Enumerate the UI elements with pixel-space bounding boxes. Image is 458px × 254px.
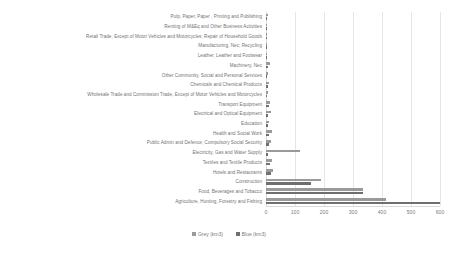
bar-row bbox=[266, 148, 440, 158]
bar-row bbox=[266, 109, 440, 119]
category-axis-labels: Pulp, Paper, Paper , Printing and Publis… bbox=[0, 12, 262, 206]
category-label: Construction bbox=[236, 179, 262, 184]
category-label: Pulp, Paper, Paper , Printing and Publis… bbox=[170, 14, 262, 19]
category-label: Chemicals and Chemical Products bbox=[190, 82, 262, 87]
bar-row bbox=[266, 196, 440, 206]
value-axis-tick: 400 bbox=[378, 209, 386, 215]
bar-blue bbox=[266, 124, 268, 127]
bar-blue bbox=[266, 153, 268, 156]
legend-swatch-icon bbox=[236, 232, 240, 236]
legend-swatch-icon bbox=[192, 232, 196, 236]
bar-grey bbox=[266, 72, 268, 75]
bar-grey bbox=[266, 14, 268, 17]
legend-label: Grey (km3) bbox=[198, 231, 223, 237]
category-label: Education bbox=[241, 121, 262, 126]
bar-row bbox=[266, 119, 440, 129]
bar-blue bbox=[266, 163, 270, 166]
chart-legend: Grey (km3)Blue (km3) bbox=[0, 231, 458, 237]
category-label: Health and Social Work bbox=[213, 131, 262, 136]
bar-row bbox=[266, 128, 440, 138]
bar-grey bbox=[266, 159, 272, 162]
bar-row bbox=[266, 12, 440, 22]
bar-blue bbox=[266, 85, 268, 88]
bar-row bbox=[266, 158, 440, 168]
legend-item[interactable]: Blue (km3) bbox=[236, 231, 266, 237]
bar-grey bbox=[266, 121, 269, 124]
bar-blue bbox=[266, 75, 267, 78]
bar-grey bbox=[266, 130, 272, 133]
category-label: Manufacturing, Nec; Recycling bbox=[198, 43, 262, 48]
bar-row bbox=[266, 61, 440, 71]
bar-grey bbox=[266, 179, 321, 182]
bar-blue bbox=[266, 134, 269, 137]
bar-blue bbox=[266, 66, 268, 69]
category-label: Textiles and Textile Products bbox=[203, 160, 262, 165]
bar-row bbox=[266, 41, 440, 51]
bar-blue bbox=[266, 17, 267, 20]
bar-grey bbox=[266, 169, 273, 172]
value-axis-tick: 100 bbox=[291, 209, 299, 215]
category-label: Agriculture, Hunting, Forestry and Fishi… bbox=[175, 199, 262, 204]
category-label: Electrical and Optical Equipment bbox=[194, 111, 262, 116]
bar-grey bbox=[266, 91, 268, 94]
value-axis-tick: 300 bbox=[349, 209, 357, 215]
plot-area bbox=[266, 12, 440, 206]
bar-blue bbox=[266, 37, 267, 40]
bar-row bbox=[266, 31, 440, 41]
bar-row bbox=[266, 51, 440, 61]
category-label: Leather, Leather and Footwear bbox=[198, 53, 262, 58]
bar-row bbox=[266, 187, 440, 197]
bar-row bbox=[266, 70, 440, 80]
bar-blue bbox=[266, 56, 267, 59]
category-label: Machinery, Nec bbox=[230, 63, 262, 68]
bar-blue bbox=[266, 202, 440, 205]
bar-row bbox=[266, 138, 440, 148]
bar-chart: Pulp, Paper, Paper , Printing and Publis… bbox=[0, 0, 458, 254]
legend-item[interactable]: Grey (km3) bbox=[192, 231, 223, 237]
bar-grey bbox=[266, 82, 269, 85]
bar-rows bbox=[266, 12, 440, 206]
bar-grey bbox=[266, 24, 267, 27]
bar-blue bbox=[266, 182, 311, 185]
value-axis-tick: 0 bbox=[265, 209, 268, 215]
bar-row bbox=[266, 22, 440, 32]
bar-row bbox=[266, 80, 440, 90]
bar-grey bbox=[266, 33, 267, 36]
value-axis-line bbox=[266, 206, 440, 207]
bar-grey bbox=[266, 43, 267, 46]
bar-grey bbox=[266, 111, 271, 114]
bar-grey bbox=[266, 62, 270, 65]
category-label: Other Community, Social and Personal Ser… bbox=[162, 73, 262, 78]
bar-row bbox=[266, 177, 440, 187]
category-label: Renting of M&Eq and Other Business Activ… bbox=[164, 24, 262, 29]
value-axis-tick: 500 bbox=[407, 209, 415, 215]
bar-row bbox=[266, 99, 440, 109]
bar-grey bbox=[266, 53, 267, 56]
bar-grey bbox=[266, 140, 271, 143]
bar-row bbox=[266, 90, 440, 100]
bar-blue bbox=[266, 27, 267, 30]
bar-blue bbox=[266, 172, 271, 175]
bar-blue bbox=[266, 114, 268, 117]
bar-blue bbox=[266, 46, 267, 49]
category-label: Public Admin and Defence; Compulsory Soc… bbox=[147, 140, 262, 145]
bar-blue bbox=[266, 192, 363, 195]
gridline bbox=[440, 12, 441, 206]
legend-label: Blue (km3) bbox=[242, 231, 266, 237]
category-label: Retail Trade, Except of Motor Vehicles a… bbox=[86, 34, 262, 39]
category-label: Electricity, Gas and Water Supply bbox=[192, 150, 262, 155]
bar-grey bbox=[266, 101, 270, 104]
bar-blue bbox=[266, 105, 269, 108]
category-label: Transport Equipment bbox=[218, 102, 262, 107]
bar-row bbox=[266, 167, 440, 177]
value-axis-tick: 200 bbox=[320, 209, 328, 215]
bar-grey bbox=[266, 150, 300, 153]
bar-blue bbox=[266, 143, 269, 146]
category-label: Hotels and Restaurants bbox=[213, 170, 262, 175]
category-label: Food, Beverages and Tobacco bbox=[198, 189, 262, 194]
bar-grey bbox=[266, 188, 363, 191]
value-axis-tick: 600 bbox=[436, 209, 444, 215]
bar-blue bbox=[266, 95, 267, 98]
category-label: Wholesale Trade and Commission Trade, Ex… bbox=[87, 92, 262, 97]
value-axis: 0100200300400500600 bbox=[266, 206, 440, 218]
